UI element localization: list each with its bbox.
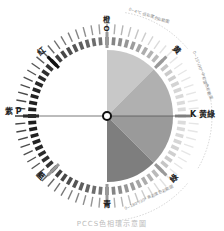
ring-bar-inner [28,122,36,123]
ring-bar-inner [178,109,186,110]
caption: PCCS色相環示意圖 [0,218,224,228]
ring-bar-outer [178,70,187,75]
ring-bar-inner [33,140,41,143]
ring-bar-outer [16,130,26,132]
ring-bar-outer [186,92,196,95]
ring-bar-inner [100,187,101,195]
ring-bar-outer [160,46,166,54]
ring-bar-inner [177,128,185,129]
ring-bar-outer [83,195,86,205]
ring-bar-inner [131,183,134,191]
label-top: 橙 O [102,16,109,31]
ring-bar-outer [83,27,86,37]
ring-bar-outer [32,63,40,69]
ring-bar-inner [74,44,77,51]
ring-bar-outer [174,63,182,69]
ring-bar-outer [27,157,36,162]
ring-bar-inner [165,71,172,76]
ring-bar-outer [189,108,199,109]
ring-bar-inner [177,102,185,103]
ring-bar-inner [42,157,49,162]
ring-bar-inner [178,122,186,123]
ring-bar-inner [153,55,158,61]
ring-bar-outer [18,92,28,95]
ring-bar-outer [148,36,153,45]
ring-bar-inner [171,146,178,149]
ring-bar-outer [16,100,26,102]
ring-bar-outer [114,198,115,208]
ring-bar-inner [68,48,72,55]
ring-bar-inner [39,77,46,81]
ring-bar-outer [61,36,66,45]
ring-bar-outer [186,137,196,140]
ring-bar-outer [54,41,60,49]
ring-bar-outer [99,24,100,34]
ring-bar-inner [113,37,114,45]
ring-bar-inner [62,174,67,181]
label-bottom: 青 [103,201,111,209]
ring-bar-inner [161,65,167,70]
ring-bar-inner [176,134,184,136]
ring-bar-inner [93,186,94,194]
ring-bar-outer [178,157,187,162]
label-right: K 黄綠 [190,111,215,119]
center-marker [103,112,111,120]
ring-bar-outer [76,30,79,39]
ring-bar-inner [125,185,127,193]
ring-bar-inner [62,51,67,58]
ring-bar-inner [168,152,175,156]
ring-bar-inner [143,48,147,55]
ring-bar-inner [125,40,127,48]
ring-bar-outer [24,77,33,81]
ring-bar-inner [168,77,175,81]
ring-bar-inner [56,55,61,61]
ring-bar-inner [35,146,42,149]
ring-bar-outer [18,137,28,140]
ring-bar-inner [176,96,184,98]
ring-bar-inner [148,174,153,181]
ring-bar-inner [29,128,37,129]
ring-bar-inner [68,177,72,184]
label-left: 紫 P [5,108,22,116]
ring-bar-inner [74,180,77,187]
ring-bar-outer [135,30,138,39]
ring-bar-inner [174,89,182,92]
ring-bar-outer [154,41,160,49]
ring-bar-outer [142,33,146,42]
ring-bar-outer [68,33,72,42]
ring-bar-inner [137,180,140,187]
ring-bar-outer [188,130,198,132]
ring-bar-outer [91,197,93,207]
ring-bar-outer [48,46,54,54]
ring-bar-outer [189,123,199,124]
ring-bar-outer [121,25,123,35]
ring-bar-outer [170,57,178,63]
ring-bar-outer [184,144,193,147]
ring-bar-inner [119,38,120,46]
ring-bar-outer [181,77,190,81]
ring-bar-inner [165,157,172,162]
ring-bar-inner [174,140,182,143]
ring-bar-inner [39,152,46,156]
ring-bar-outer [21,85,30,88]
ring-bar-inner [93,38,94,46]
ring-bar-outer [37,57,45,63]
ring-bar-inner [56,170,61,176]
ring-bar-outer [181,151,190,155]
ring-bar-inner [33,89,41,92]
ring-bar-inner [87,185,89,193]
ring-bar-outer [114,24,115,34]
ring-bar-inner [42,71,49,76]
ring-bar-outer [54,183,60,191]
ring-bar-inner [137,44,140,51]
ring-bar-inner [46,162,52,167]
ring-bar-outer [76,193,79,202]
ring-bar-outer [15,123,25,124]
ring-bar-inner [153,170,158,176]
ring-bar-outer [27,70,36,75]
ring-bar-outer [21,144,30,147]
ring-bar-outer [32,163,40,169]
ring-bar-inner [171,83,178,86]
ring-bar-outer [48,179,54,187]
ring-bar-outer [68,190,72,199]
